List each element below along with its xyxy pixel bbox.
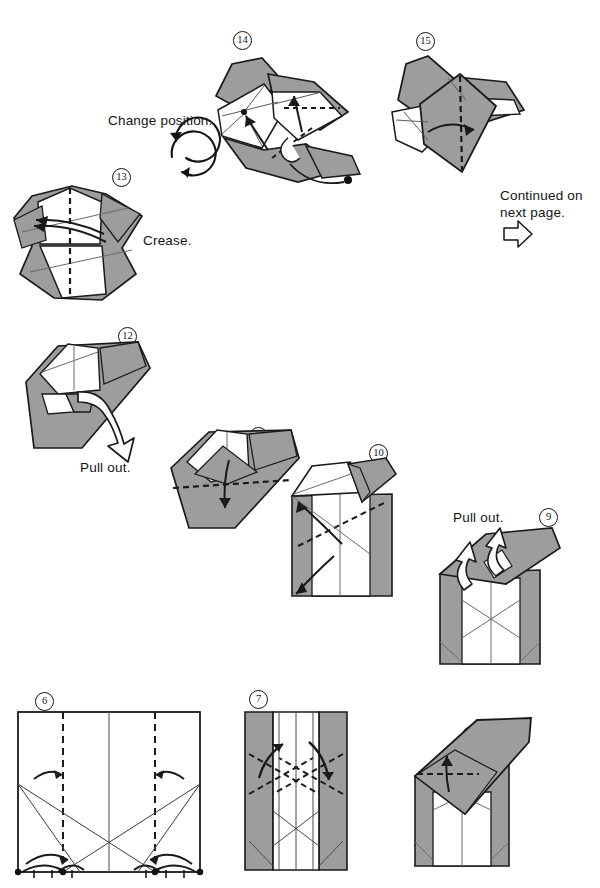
figure-step-14 [202,52,372,202]
figure-step-11 [165,420,310,545]
figure-step-7 [241,706,361,881]
caption-change-position: Change position. [108,113,213,128]
figure-step-8 [405,714,555,879]
figure-step-12 [18,336,173,471]
figure-step-15 [388,48,538,188]
origami-diagram-page: Change position. Crease. Continued on ne… [0,0,600,888]
figure-step-13 [10,178,170,313]
step-number-14: 14 [233,31,252,50]
caption-continued-line2: next page. [500,205,565,221]
figure-step-6 [12,706,212,881]
figure-step-9 [428,522,583,677]
caption-continued-line1: Continued on [500,188,583,204]
